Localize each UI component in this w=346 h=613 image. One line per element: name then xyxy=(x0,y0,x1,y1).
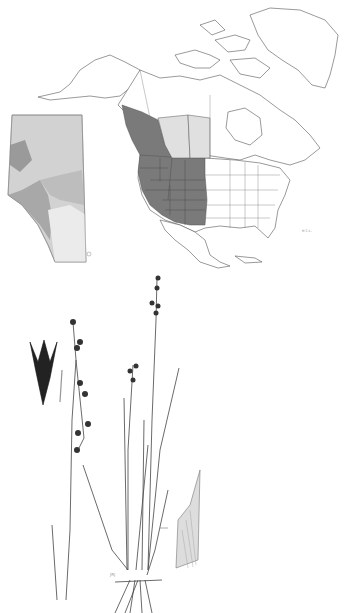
north-america-map-svg: e.t.c. xyxy=(0,0,346,270)
artist-signature: JRJ xyxy=(109,572,115,577)
botanical-illustration: JRJ xyxy=(0,270,346,613)
sheath-detail xyxy=(160,470,200,568)
map-scale-label: e.t.c. xyxy=(302,228,312,233)
distribution-map: e.t.c. xyxy=(0,0,346,270)
alberta-inset xyxy=(8,115,91,262)
flower-detail xyxy=(30,340,62,405)
plant-drawing-svg: JRJ xyxy=(0,270,346,613)
plant-stem-left xyxy=(52,322,84,600)
inflorescence-left xyxy=(70,319,91,453)
plant-main-tuft xyxy=(83,278,179,613)
